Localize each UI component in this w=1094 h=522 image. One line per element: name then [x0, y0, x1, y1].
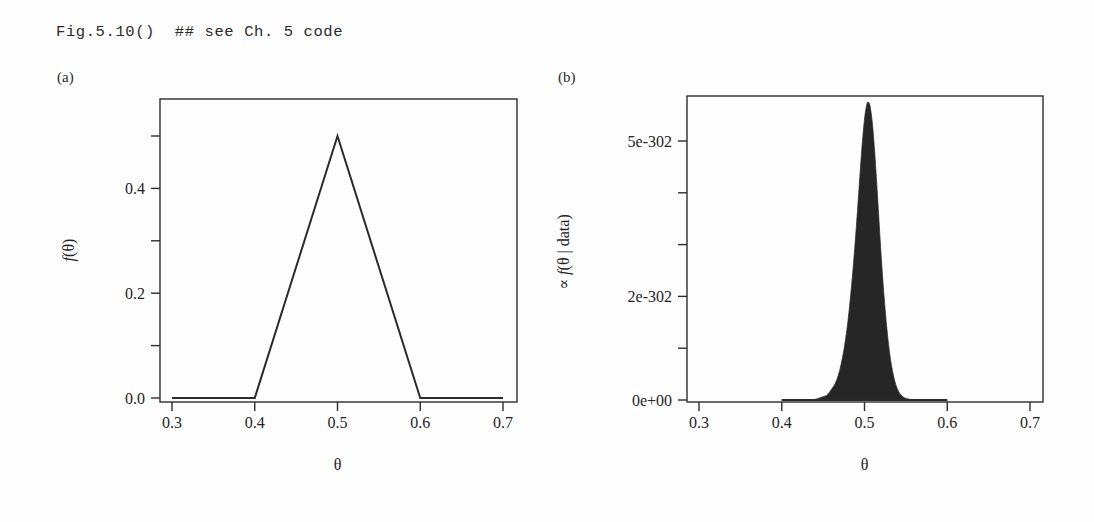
- y-axis-title-b-group: ∝ f(θ | data): [555, 214, 573, 289]
- x-tick-label: 0.4: [772, 414, 792, 431]
- y-tick-label: 0.2: [125, 285, 145, 302]
- x-tick-label: 0.7: [493, 414, 513, 431]
- y-axis-b: 0e+002e-3025e-302: [628, 133, 687, 409]
- prior-density-line: [172, 136, 503, 398]
- x-tick-label: 0.5: [855, 414, 875, 431]
- y-axis-title-b: ∝ f(θ | data): [555, 214, 573, 289]
- figure-panel-a: (a) 0.00.20.4 0.30.40.50.60.7 θ f(θ): [0, 0, 547, 522]
- x-axis-a: 0.30.40.50.60.7: [162, 402, 513, 431]
- y-tick-label: 5e-302: [628, 133, 672, 150]
- x-axis-title-b: θ: [861, 456, 869, 473]
- x-tick-label: 0.7: [1020, 414, 1040, 431]
- x-tick-label: 0.3: [689, 414, 709, 431]
- figure-page: Fig.5.10() ## see Ch. 5 code (a) 0.00.20…: [0, 0, 1094, 522]
- y-tick-label: 0.4: [125, 180, 145, 197]
- y-axis-title-a-group: f(θ): [60, 239, 78, 262]
- y-tick-label: 0e+00: [632, 392, 672, 409]
- x-tick-label: 0.5: [328, 414, 348, 431]
- x-tick-label: 0.3: [162, 414, 182, 431]
- posterior-density-area: [782, 102, 948, 400]
- x-tick-label: 0.6: [937, 414, 957, 431]
- y-axis-title-a: f(θ): [60, 239, 78, 262]
- plot-area-b: 0e+002e-3025e-302 0.30.40.50.60.7 θ ∝ f(…: [527, 0, 1094, 522]
- y-tick-label: 0.0: [125, 390, 145, 407]
- figure-panel-b: (b) 0e+002e-3025e-302 0.30.40.50.60.7 θ …: [527, 0, 1074, 522]
- x-tick-label: 0.4: [245, 414, 265, 431]
- y-tick-label: 2e-302: [628, 288, 672, 305]
- x-axis-title-a: θ: [334, 456, 342, 473]
- x-tick-label: 0.6: [410, 414, 430, 431]
- plot-area-a: 0.00.20.4 0.30.40.50.60.7 θ f(θ): [0, 0, 547, 522]
- x-axis-b: 0.30.40.50.60.7: [689, 402, 1040, 431]
- y-axis-a: 0.00.20.4: [125, 136, 160, 407]
- plot-box-a: [160, 99, 517, 402]
